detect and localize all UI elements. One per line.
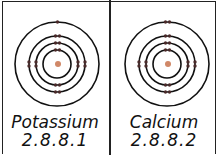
atom-name: Potassium bbox=[1, 113, 109, 131]
calcium-bohr-model bbox=[110, 0, 218, 112]
atom-name: Calcium bbox=[110, 113, 218, 131]
potassium-bohr-model bbox=[1, 0, 109, 112]
electron-configuration: 2.8.8.2 bbox=[110, 131, 218, 149]
electron-configuration: 2.8.8.1 bbox=[1, 131, 109, 149]
calcium-panel: Calcium 2.8.8.2 bbox=[110, 0, 218, 155]
potassium-panel: Potassium 2.8.8.1 bbox=[1, 0, 109, 155]
